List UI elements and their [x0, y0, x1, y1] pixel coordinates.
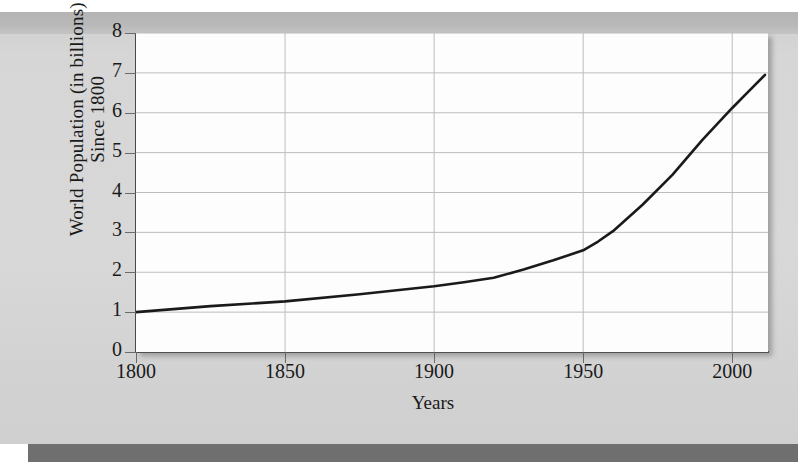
y-tick-label: 4: [88, 179, 122, 202]
x-axis-label-text: Years: [412, 392, 454, 413]
x-tick-label: 1950: [538, 360, 628, 383]
chart-svg: [136, 33, 768, 352]
figure-canvas: World Population (in billions) Since 180…: [0, 0, 798, 466]
x-axis-label: Years: [0, 392, 798, 414]
x-tick-label: 1800: [91, 360, 181, 383]
y-axis-label-line1: World Population (in billions): [66, 2, 87, 236]
population-line-series: [136, 75, 765, 312]
y-tick-label: 8: [88, 19, 122, 42]
y-tick-label: 5: [88, 139, 122, 162]
y-tick-label: 7: [88, 59, 122, 82]
x-tick-mark: [732, 352, 733, 363]
y-tick-label: 1: [88, 298, 122, 321]
y-tick-label: 6: [88, 99, 122, 122]
y-tick-label: 3: [88, 218, 122, 241]
x-tick-mark: [583, 352, 584, 363]
x-tick-mark: [285, 352, 286, 363]
x-tick-label: 2000: [687, 360, 777, 383]
x-tick-mark: [434, 352, 435, 363]
y-tick-label: 0: [88, 338, 122, 361]
x-tick-mark: [136, 352, 137, 363]
footer-rule: [28, 444, 798, 462]
plot-area: [136, 33, 768, 352]
x-tick-label: 1850: [240, 360, 330, 383]
y-tick-label: 2: [88, 258, 122, 281]
x-tick-label: 1900: [389, 360, 479, 383]
